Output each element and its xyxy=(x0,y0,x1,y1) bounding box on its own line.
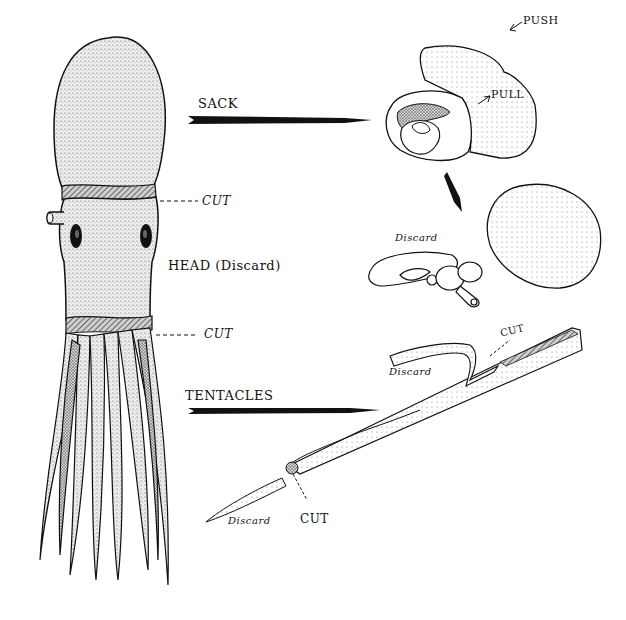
label-discard-tentacle-base: Discard xyxy=(228,515,271,526)
down-arrow xyxy=(444,172,462,212)
diagram-artwork xyxy=(0,0,626,620)
head xyxy=(60,197,159,320)
tentacle-strip xyxy=(206,328,582,522)
cleaned-sack xyxy=(487,184,600,288)
label-sack: SACK xyxy=(198,96,238,111)
label-cut-upper: CUT xyxy=(202,194,231,208)
label-discard-innards: Discard xyxy=(395,232,438,243)
sack-arrow xyxy=(188,116,372,124)
label-push: PUSH xyxy=(523,14,559,27)
label-cut-tentacle-base: CUT xyxy=(300,512,329,526)
label-discard-tentacle-tip: Discard xyxy=(389,366,432,377)
label-tentacles: TENTACLES xyxy=(185,388,273,403)
label-pull: PULL xyxy=(491,88,524,101)
innards xyxy=(369,252,482,307)
label-head: HEAD (Discard) xyxy=(168,258,281,273)
tentacles-arrow xyxy=(188,408,380,414)
label-cut-lower: CUT xyxy=(204,327,233,341)
mantle-sack xyxy=(54,37,165,192)
tentacles xyxy=(40,328,168,585)
squid-cleaning-diagram: SACK PUSH PULL CUT HEAD (Discard) CUT TE… xyxy=(0,0,626,620)
squid-body xyxy=(40,37,168,585)
